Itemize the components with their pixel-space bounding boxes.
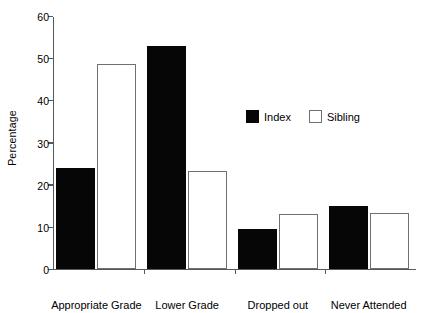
bar-sibling-2 xyxy=(279,214,318,269)
bar-sibling-0 xyxy=(97,64,136,269)
x-tick-mark xyxy=(144,270,145,274)
bar-sibling-1 xyxy=(188,171,227,269)
legend-label: Index xyxy=(264,111,291,123)
y-tick-label: 10 xyxy=(37,223,49,234)
bar-index-1 xyxy=(147,46,186,269)
x-tick-mark xyxy=(325,270,326,274)
x-axis-label: Appropriate Grade xyxy=(51,299,142,311)
x-tick-mark xyxy=(235,270,236,274)
legend-swatch-sibling xyxy=(309,110,322,123)
y-axis-line xyxy=(53,17,54,270)
legend-item-index: Index xyxy=(246,110,291,123)
x-axis-label: Dropped out xyxy=(248,299,309,311)
legend-item-sibling: Sibling xyxy=(309,110,360,123)
chart-legend: IndexSibling xyxy=(246,110,360,123)
y-tick-label: 30 xyxy=(37,138,49,149)
y-tick-label: 0 xyxy=(43,265,49,276)
bar-index-3 xyxy=(329,206,368,269)
y-tick-label: 40 xyxy=(37,96,49,107)
y-axis-title-text: Percentage xyxy=(6,110,18,166)
y-tick-label: 20 xyxy=(37,180,49,191)
legend-swatch-index xyxy=(246,110,259,123)
x-axis-label: Lower Grade xyxy=(155,299,219,311)
bar-chart: Percentage 0102030405060 Appropriate Gra… xyxy=(0,0,423,313)
legend-label: Sibling xyxy=(327,111,360,123)
plot-area: 0102030405060 Appropriate GradeLower Gra… xyxy=(53,17,416,270)
y-tick-label: 50 xyxy=(37,54,49,65)
y-tick-label: 60 xyxy=(37,12,49,23)
x-axis-label: Never Attended xyxy=(331,299,407,311)
y-axis-title: Percentage xyxy=(2,0,22,275)
bar-sibling-3 xyxy=(370,213,409,269)
bar-index-2 xyxy=(238,229,277,269)
bar-index-0 xyxy=(56,168,95,269)
